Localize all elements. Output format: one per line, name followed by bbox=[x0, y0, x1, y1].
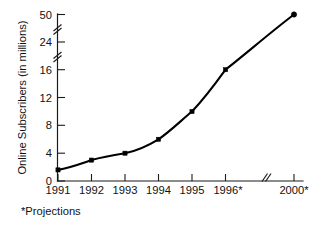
data-point-1993 bbox=[123, 151, 127, 155]
x-tick-label-1995: 1995 bbox=[180, 184, 205, 196]
x-tick-label-1991: 1991 bbox=[46, 184, 71, 196]
y-tick-label-24: 24 bbox=[40, 36, 52, 48]
data-point-1996 bbox=[223, 68, 227, 72]
x-tick-label-1993: 1993 bbox=[113, 184, 138, 196]
y-axis-title: Online Subscribers (in millions) bbox=[16, 20, 28, 174]
y-tick-label-50: 50 bbox=[40, 9, 52, 21]
x-tick-label-2000: 2000* bbox=[279, 184, 309, 196]
y-tick-label-4: 4 bbox=[46, 147, 52, 159]
line-chart: 0 4 8 12 16 24 50 1991 1992 1993 1994 19… bbox=[0, 0, 321, 230]
y-tick-label-8: 8 bbox=[46, 119, 52, 131]
chart-canvas: 0 4 8 12 16 24 50 1991 1992 1993 1994 19… bbox=[0, 0, 321, 230]
data-point-1994 bbox=[156, 137, 160, 141]
x-tick-label-1996: 1996* bbox=[213, 184, 243, 196]
x-tick-label-1992: 1992 bbox=[79, 184, 104, 196]
data-point-2000 bbox=[291, 12, 296, 17]
footnote-projections: *Projections bbox=[21, 205, 81, 217]
data-point-1991 bbox=[56, 168, 60, 172]
x-tick-label-1994: 1994 bbox=[146, 184, 171, 196]
y-tick-label-12: 12 bbox=[40, 92, 52, 104]
data-point-1995 bbox=[190, 109, 194, 113]
y-tick-label-16: 16 bbox=[40, 64, 52, 76]
data-point-1992 bbox=[89, 158, 93, 162]
